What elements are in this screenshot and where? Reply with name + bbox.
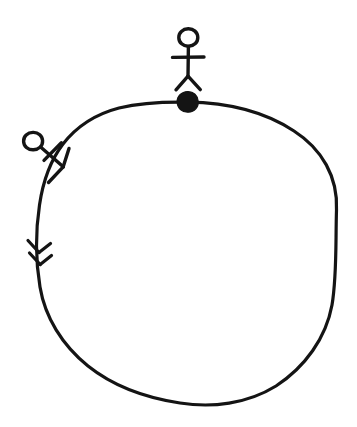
top-node-dot[interactable]	[177, 92, 198, 113]
direction-double-chevron	[28, 241, 52, 265]
top-actor[interactable]	[173, 29, 205, 90]
diagram-canvas: Hand-drawn cycle diagram with two actors…	[0, 0, 357, 427]
sketch-svg	[0, 0, 357, 427]
main-cycle-circle	[37, 102, 337, 405]
